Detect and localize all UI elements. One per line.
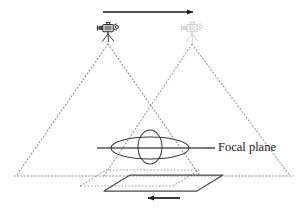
view-cone-left-edge-b bbox=[108, 44, 200, 176]
view-cone-right-edge-b bbox=[192, 44, 290, 176]
target-plane-solid bbox=[104, 175, 223, 191]
view-cone-right bbox=[104, 44, 290, 176]
camera-tripod-icon bbox=[97, 22, 118, 41]
focal-plane-diagram: Focal plane bbox=[0, 0, 307, 210]
camera-tripod-icon bbox=[181, 22, 202, 41]
view-cone-left bbox=[16, 44, 200, 176]
view-cone-left-edge-a bbox=[16, 44, 108, 176]
target-plane-dotted bbox=[80, 170, 199, 186]
diagram-root: Focal plane bbox=[0, 0, 307, 210]
focal-plane-label: Focal plane bbox=[218, 140, 276, 154]
view-cone-right-edge-a bbox=[104, 44, 192, 176]
